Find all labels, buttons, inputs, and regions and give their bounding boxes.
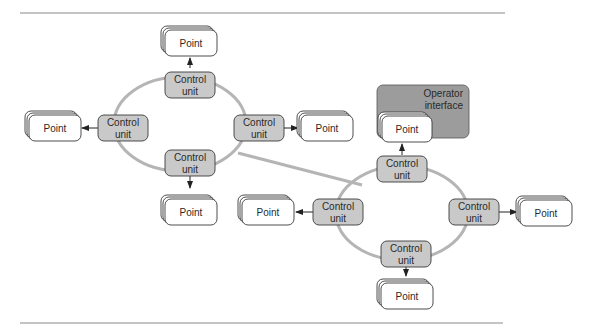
ring-link (238, 153, 362, 185)
control-unit[interactable]: Controlunit (449, 199, 499, 225)
network-diagram: Operator interface PointControlunitPoint… (0, 0, 594, 331)
point-stack[interactable]: Point (161, 195, 217, 225)
point-label: Point (180, 38, 203, 49)
control-unit[interactable]: Controlunit (98, 115, 148, 141)
control-unit-label-1: Control (386, 158, 418, 169)
control-unit[interactable]: Controlunit (234, 115, 284, 141)
control-unit[interactable]: Controlunit (165, 72, 215, 98)
control-unit[interactable]: Controlunit (165, 150, 215, 176)
point-label: Point (257, 207, 280, 218)
point-label: Point (180, 207, 203, 218)
control-unit-label-1: Control (174, 74, 206, 85)
control-unit-label-2: unit (182, 164, 198, 175)
control-unit-label-2: unit (115, 129, 131, 140)
control-unit-label-1: Control (322, 201, 354, 212)
point-stack[interactable]: Point (516, 196, 572, 226)
control-unit-label-1: Control (458, 201, 490, 212)
control-unit-label-1: Control (243, 117, 275, 128)
control-unit[interactable]: Controlunit (313, 199, 363, 225)
control-unit-label-1: Control (390, 243, 422, 254)
control-unit-label-2: unit (398, 255, 414, 266)
point-stack[interactable]: Point (378, 112, 432, 142)
point-stack[interactable]: Point (25, 111, 81, 141)
control-unit-label-2: unit (330, 213, 346, 224)
point-label: Point (396, 124, 419, 135)
point-stack[interactable]: Point (238, 195, 294, 225)
point-stack[interactable]: Point (161, 26, 217, 56)
control-unit[interactable]: Controlunit (377, 156, 427, 182)
control-unit-label-2: unit (466, 213, 482, 224)
operator-interface-label-1: Operator (424, 88, 464, 99)
control-unit-label-2: unit (182, 86, 198, 97)
control-unit-label-2: unit (251, 129, 267, 140)
point-stack[interactable]: Point (377, 279, 433, 309)
control-unit-label-1: Control (107, 117, 139, 128)
point-label: Point (535, 208, 558, 219)
point-label: Point (44, 123, 67, 134)
point-label: Point (316, 123, 339, 134)
control-unit-label-2: unit (394, 170, 410, 181)
point-stack[interactable]: Point (297, 111, 353, 141)
operator-interface-label-2: interface (425, 100, 464, 111)
control-unit[interactable]: Controlunit (381, 241, 431, 267)
control-unit-label-1: Control (174, 152, 206, 163)
point-label: Point (396, 291, 419, 302)
